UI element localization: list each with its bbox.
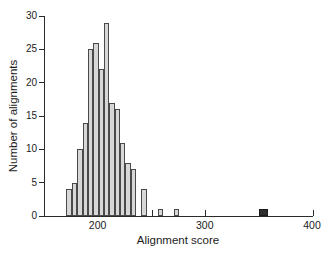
highlight-bar [259, 209, 268, 216]
y-tick-label: 10 [15, 144, 37, 154]
histogram-bar [158, 209, 163, 216]
y-tick-label: 15 [15, 111, 37, 121]
histogram-bar [131, 169, 136, 216]
histogram-bar [141, 189, 146, 216]
histogram-figure: Number of alignments 0510152025302003004… [0, 0, 328, 260]
x-axis-title: Alignment score [44, 234, 312, 246]
histogram-bar [174, 209, 179, 216]
x-tick-label: 200 [83, 220, 113, 231]
y-axis-tick [39, 149, 44, 150]
x-tick-label: 300 [190, 220, 220, 231]
y-axis-tick [39, 16, 44, 17]
y-axis-tick [39, 116, 44, 117]
x-tick-label: 400 [297, 220, 327, 231]
y-axis-tick [39, 182, 44, 183]
plot-area [44, 16, 313, 217]
y-tick-label: 25 [15, 44, 37, 54]
y-tick-label: 5 [15, 178, 37, 188]
x-axis-tick [205, 210, 206, 216]
x-axis-tick [152, 210, 153, 216]
y-axis-tick [39, 82, 44, 83]
y-tick-label: 0 [15, 211, 37, 221]
y-axis-tick [39, 49, 44, 50]
x-axis-tick [313, 210, 314, 216]
y-tick-label: 20 [15, 78, 37, 88]
y-axis-tick [39, 216, 44, 217]
y-tick-label: 30 [15, 11, 37, 21]
